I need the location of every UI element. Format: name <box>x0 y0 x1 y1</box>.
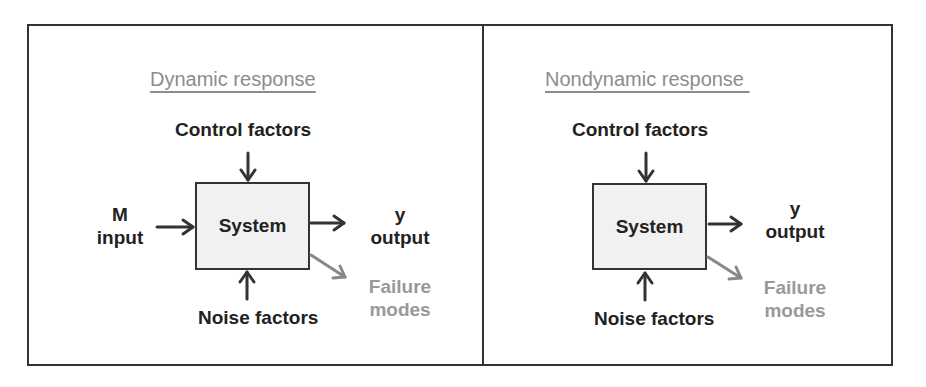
arrows-layer <box>0 0 926 387</box>
output-arrow-icon <box>311 216 344 230</box>
noise-arrow-icon <box>240 272 254 299</box>
input-arrow-icon <box>157 220 193 234</box>
output-arrow-icon <box>709 217 741 231</box>
control-arrow-icon <box>639 153 653 181</box>
failure-arrow-icon <box>708 257 741 279</box>
control-arrow-icon <box>241 153 255 180</box>
noise-arrow-icon <box>638 273 652 300</box>
failure-arrow-icon <box>311 255 345 278</box>
